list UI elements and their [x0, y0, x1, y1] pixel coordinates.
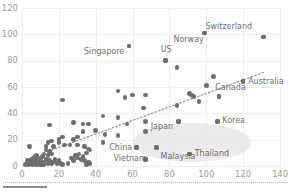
- data-point-labeled: [217, 94, 222, 99]
- data-point-labeled: [163, 58, 168, 63]
- data-label-vietnam: Vietnam: [113, 154, 146, 163]
- data-point: [116, 133, 121, 138]
- data-label-canada: Canada: [215, 83, 245, 92]
- footer-dotted-rule: [3, 182, 288, 183]
- data-point: [86, 122, 91, 127]
- data-point: [71, 120, 76, 125]
- data-point: [175, 103, 180, 108]
- data-point: [71, 137, 76, 142]
- data-point: [175, 65, 180, 70]
- y-tick-label: 120: [2, 4, 18, 13]
- data-label-us: US: [161, 45, 172, 54]
- data-point: [101, 140, 106, 145]
- x-tick-label: 100: [198, 169, 214, 179]
- data-point: [197, 99, 202, 104]
- data-label-china: China: [109, 143, 132, 152]
- data-point: [130, 93, 135, 98]
- data-point: [187, 91, 192, 96]
- data-point: [116, 115, 121, 120]
- data-point: [211, 74, 216, 79]
- data-point: [46, 161, 51, 166]
- y-tick-label: 40: [7, 109, 18, 118]
- plot-area: SwitzerlandNorwayUSSingaporeAustraliaCan…: [22, 8, 280, 166]
- data-label-korea: Korea: [222, 116, 245, 125]
- gridline-vertical: [280, 8, 281, 166]
- data-point-labeled: [261, 35, 266, 40]
- data-point: [143, 93, 148, 98]
- data-label-singapore: Singapore: [84, 47, 124, 56]
- x-tick-label: 120: [235, 169, 251, 179]
- data-point: [93, 128, 98, 133]
- y-tick-label: 80: [7, 56, 18, 65]
- data-point: [84, 162, 89, 167]
- y-tick-label: 0: [13, 162, 18, 171]
- x-tick-label: 60: [127, 169, 138, 179]
- footer-accent-bar: [3, 186, 47, 188]
- x-tick-label: 20: [53, 169, 64, 179]
- data-point-labeled: [176, 119, 181, 124]
- y-tick-label: 100: [2, 30, 18, 39]
- y-axis: 020406080100120: [0, 8, 18, 166]
- data-point: [143, 129, 148, 134]
- x-tick-label: 0: [19, 169, 24, 179]
- data-label-japan: Japan: [151, 122, 173, 131]
- data-point-labeled: [134, 145, 139, 150]
- data-point: [66, 161, 71, 166]
- data-point: [75, 143, 80, 148]
- data-point: [23, 162, 28, 167]
- x-tick-label: 140: [272, 169, 288, 179]
- data-point: [84, 151, 89, 156]
- data-point: [34, 162, 39, 167]
- scatter-chart: 020406080100120 SwitzerlandNorwayUSSinga…: [0, 0, 291, 192]
- data-label-switzerland: Switzerland: [205, 22, 252, 31]
- y-tick-label: 20: [7, 135, 18, 144]
- data-label-thailand: Thailand: [195, 149, 229, 158]
- data-point-labeled: [215, 119, 220, 124]
- data-point: [62, 143, 67, 148]
- data-point-labeled: [154, 145, 159, 150]
- data-point: [143, 119, 148, 124]
- data-point: [60, 162, 65, 167]
- data-label-australia: Australia: [248, 77, 283, 86]
- x-axis: 020406080100120140: [22, 169, 280, 181]
- x-tick-label: 40: [90, 169, 101, 179]
- data-label-norway: Norway: [173, 35, 203, 44]
- data-point: [81, 129, 86, 134]
- data-point: [51, 144, 56, 149]
- data-point: [204, 83, 209, 88]
- x-tick-label: 80: [164, 169, 175, 179]
- y-tick-label: 60: [7, 83, 18, 92]
- data-point: [103, 132, 108, 137]
- data-point: [57, 140, 62, 145]
- data-point: [27, 144, 32, 149]
